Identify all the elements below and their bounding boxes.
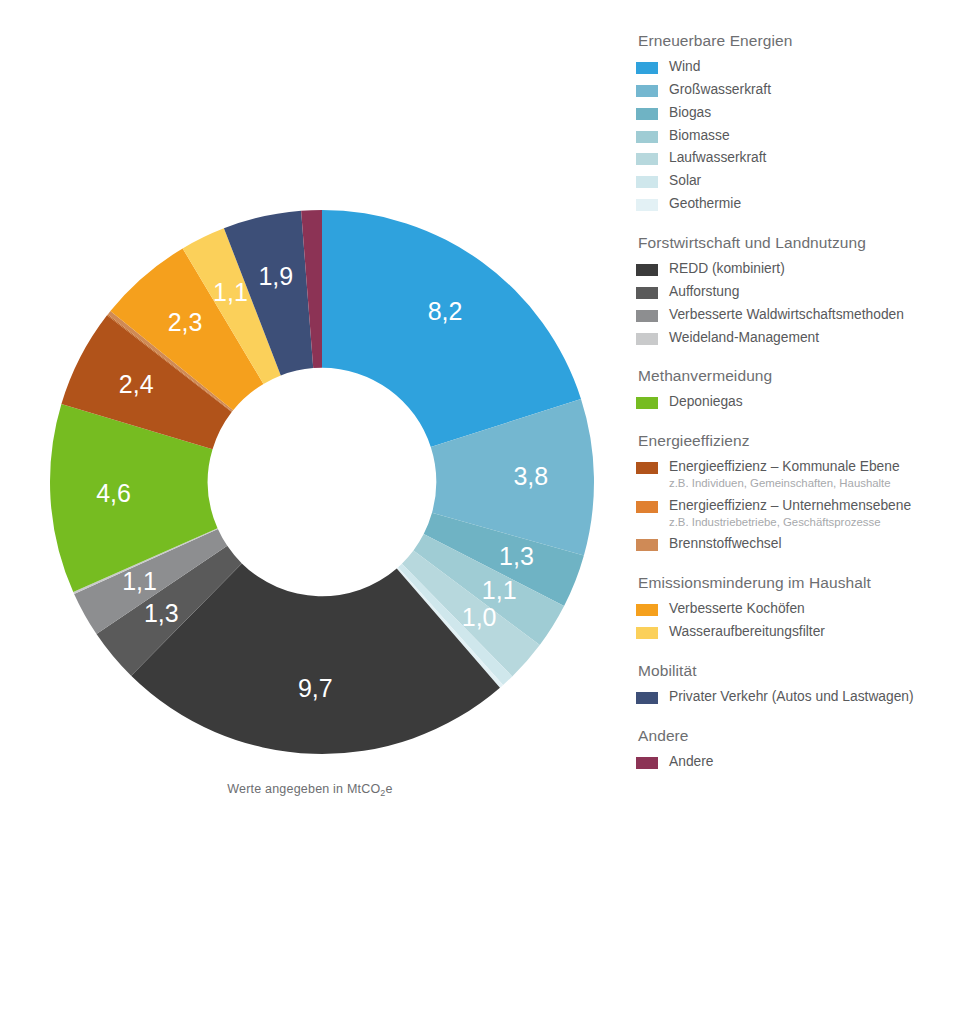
legend-item-label: Biogas bbox=[669, 105, 711, 121]
legend-item-label: REDD (kombiniert) bbox=[669, 261, 785, 277]
slice-value-label: 0,3 bbox=[534, 697, 559, 717]
legend-swatch-icon bbox=[636, 176, 658, 188]
legend-swatch-icon bbox=[636, 85, 658, 97]
legend-item[interactable]: Brennstoffwechsel bbox=[636, 536, 970, 552]
slice-value-label: 9,7 bbox=[298, 674, 333, 702]
legend-item-text: Solar bbox=[669, 173, 701, 189]
legend-swatch-icon bbox=[636, 501, 658, 513]
legend-item-text: Verbesserte Waldwirtschaftsmethoden bbox=[669, 307, 904, 323]
caption-prefix: Werte angegeben in MtCO bbox=[227, 782, 380, 796]
legend-item-text: Aufforstung bbox=[669, 284, 739, 300]
legend-panel: Erneuerbare EnergienWindGroßwasserkraftB… bbox=[636, 0, 970, 1018]
legend-item-label: Biomasse bbox=[669, 128, 730, 144]
slice-value-label: 1,9 bbox=[258, 262, 293, 290]
donut-chart: 8,23,81,31,11,00,30,19,71,31,10,054,62,4… bbox=[38, 198, 606, 766]
legend-item-text: Deponiegas bbox=[669, 394, 743, 410]
caption-suffix: e bbox=[386, 782, 393, 796]
legend-item[interactable]: Verbesserte Kochöfen bbox=[636, 601, 970, 617]
legend-group-title: Forstwirtschaft und Landnutzung bbox=[638, 234, 970, 252]
legend-group: EnergieeffizienzEnergieeffizienz – Kommu… bbox=[636, 432, 970, 552]
legend-swatch-icon bbox=[636, 539, 658, 551]
chart-panel: 8,23,81,31,11,00,30,19,71,31,10,054,62,4… bbox=[0, 0, 620, 1018]
legend-group: Emissionsminderung im HaushaltVerbessert… bbox=[636, 574, 970, 640]
slice-value-label: 2,3 bbox=[168, 308, 203, 336]
legend-item-label: Andere bbox=[669, 754, 714, 770]
legend-item[interactable]: Privater Verkehr (Autos und Lastwagen) bbox=[636, 689, 970, 705]
legend-item[interactable]: Energieeffizienz – Unternehmensebenez.B.… bbox=[636, 498, 970, 530]
legend-item-text: Andere bbox=[669, 754, 714, 770]
legend-item-text: Biomasse bbox=[669, 128, 730, 144]
slice-value-label: 1,3 bbox=[144, 599, 179, 627]
legend-group: MethanvermeidungDeponiegas bbox=[636, 367, 970, 410]
legend-group-title: Erneuerbare Energien bbox=[638, 32, 970, 50]
legend-item[interactable]: REDD (kombiniert) bbox=[636, 261, 970, 277]
slice-value-label: 2,4 bbox=[119, 370, 154, 398]
legend-item[interactable]: Biomasse bbox=[636, 128, 970, 144]
legend-item-label: Geothermie bbox=[669, 196, 741, 212]
legend-item-text: Energieeffizienz – Unternehmensebenez.B.… bbox=[669, 498, 911, 530]
legend-item[interactable]: Wasseraufbereitungsfilter bbox=[636, 624, 970, 640]
chart-caption: Werte angegeben in MtCO2e bbox=[0, 782, 620, 796]
legend-group: Forstwirtschaft und LandnutzungREDD (kom… bbox=[636, 234, 970, 345]
legend-swatch-icon bbox=[636, 757, 658, 769]
legend-swatch-icon bbox=[636, 287, 658, 299]
legend-item-label: Deponiegas bbox=[669, 394, 743, 410]
legend-item-sublabel: z.B. Individuen, Gemeinschaften, Haushal… bbox=[669, 477, 900, 491]
legend-item[interactable]: Weideland-Management bbox=[636, 330, 970, 346]
legend-item-text: Privater Verkehr (Autos und Lastwagen) bbox=[669, 689, 914, 705]
legend-item-text: Großwasserkraft bbox=[669, 82, 771, 98]
legend-item[interactable]: Biogas bbox=[636, 105, 970, 121]
legend-item[interactable]: Wind bbox=[636, 59, 970, 75]
legend-item-label: Energieeffizienz – Unternehmensebene bbox=[669, 498, 911, 514]
legend-item-label: Energieeffizienz – Kommunale Ebene bbox=[669, 459, 900, 475]
legend-item-text: Energieeffizienz – Kommunale Ebenez.B. I… bbox=[669, 459, 900, 491]
legend-item-text: REDD (kombiniert) bbox=[669, 261, 785, 277]
legend-item-label: Laufwasserkraft bbox=[669, 150, 766, 166]
legend-swatch-icon bbox=[636, 62, 658, 74]
legend-item[interactable]: Solar bbox=[636, 173, 970, 189]
legend-item-text: Geothermie bbox=[669, 196, 741, 212]
slice-value-label: 1,1 bbox=[482, 576, 517, 604]
legend-swatch-icon bbox=[636, 333, 658, 345]
slice-value-label: 4,6 bbox=[96, 479, 131, 507]
legend-item[interactable]: Andere bbox=[636, 754, 970, 770]
legend-swatch-icon bbox=[636, 397, 658, 409]
legend-group-title: Emissionsminderung im Haushalt bbox=[638, 574, 970, 592]
legend-item[interactable]: Deponiegas bbox=[636, 394, 970, 410]
legend-item-text: Wind bbox=[669, 59, 700, 75]
legend-item-text: Weideland-Management bbox=[669, 330, 819, 346]
legend-item-label: Großwasserkraft bbox=[669, 82, 771, 98]
legend-item[interactable]: Energieeffizienz – Kommunale Ebenez.B. I… bbox=[636, 459, 970, 491]
legend-group: Erneuerbare EnergienWindGroßwasserkraftB… bbox=[636, 32, 970, 212]
legend-swatch-icon bbox=[636, 131, 658, 143]
legend-item[interactable]: Verbesserte Waldwirtschaftsmethoden bbox=[636, 307, 970, 323]
legend-swatch-icon bbox=[636, 692, 658, 704]
slice-value-label: 1,3 bbox=[499, 542, 534, 570]
legend-item[interactable]: Aufforstung bbox=[636, 284, 970, 300]
legend-group-title: Mobilität bbox=[638, 662, 970, 680]
legend-item[interactable]: Laufwasserkraft bbox=[636, 150, 970, 166]
legend-group: MobilitätPrivater Verkehr (Autos und Las… bbox=[636, 662, 970, 705]
legend-item-label: Verbesserte Kochöfen bbox=[669, 601, 805, 617]
slice-value-label: 0,1 bbox=[501, 724, 526, 744]
slice-value-label: 3,8 bbox=[513, 462, 548, 490]
legend-swatch-icon bbox=[636, 153, 658, 165]
legend-item-label: Wind bbox=[669, 59, 700, 75]
legend-item-label: Aufforstung bbox=[669, 284, 739, 300]
legend-item-label: Verbesserte Waldwirtschaftsmethoden bbox=[669, 307, 904, 323]
legend-item-text: Laufwasserkraft bbox=[669, 150, 766, 166]
slice-value-label: 1,0 bbox=[462, 603, 497, 631]
legend-swatch-icon bbox=[636, 627, 658, 639]
legend-group: AndereAndere bbox=[636, 727, 970, 770]
legend-item-sublabel: z.B. Industriebetriebe, Geschäftsprozess… bbox=[669, 516, 911, 530]
legend-item-text: Wasseraufbereitungsfilter bbox=[669, 624, 825, 640]
legend-item-text: Biogas bbox=[669, 105, 711, 121]
slice-value-label: 1,1 bbox=[213, 278, 248, 306]
legend-group-title: Methanvermeidung bbox=[638, 367, 970, 385]
legend-item[interactable]: Geothermie bbox=[636, 196, 970, 212]
legend-item[interactable]: Großwasserkraft bbox=[636, 82, 970, 98]
caption-subscript: 2 bbox=[380, 788, 385, 798]
legend-item-label: Wasseraufbereitungsfilter bbox=[669, 624, 825, 640]
slice-value-label: 8,2 bbox=[428, 297, 463, 325]
legend-swatch-icon bbox=[636, 264, 658, 276]
